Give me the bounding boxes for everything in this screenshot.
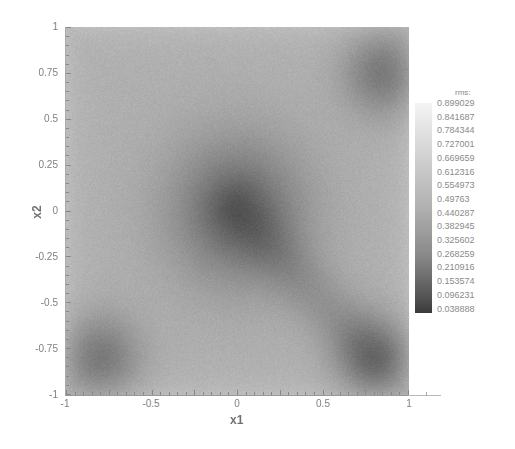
colorbar-level: 0.841687	[437, 111, 475, 125]
y-tick-label: -0.25	[18, 251, 58, 262]
colorbar-level: 0.382945	[437, 220, 475, 234]
colorbar-level: 0.784344	[437, 124, 475, 138]
y-tick-label: 1	[18, 21, 58, 32]
x-axis-extension	[408, 395, 441, 396]
colorbar-level: 0.899029	[437, 97, 475, 111]
y-tick-label: 0.5	[18, 113, 58, 124]
colorbar-level: 0.49763	[437, 193, 475, 207]
colorbar-level: 0.554973	[437, 179, 475, 193]
y-axis-title: x2	[30, 205, 44, 218]
heatmap-canvas	[66, 27, 409, 395]
colorbar-level: 0.268259	[437, 248, 475, 262]
colorbar-title: rms:	[455, 88, 471, 97]
colorbar-level: 0.038888	[437, 303, 475, 317]
x-tick-label: 0.5	[303, 398, 343, 409]
y-tick-label: -0.75	[18, 343, 58, 354]
colorbar-level: 0.096231	[437, 289, 475, 303]
colorbar	[415, 103, 432, 313]
heatmap-plot-area	[65, 27, 409, 396]
y-tick-label: -0.5	[18, 297, 58, 308]
x-tick-label: 1	[389, 398, 429, 409]
x-tick-label: -0.5	[131, 398, 171, 409]
x-axis-extension-tick	[426, 392, 427, 396]
colorbar-level: 0.727001	[437, 138, 475, 152]
colorbar-labels: 0.899029 0.841687 0.784344 0.727001 0.66…	[437, 97, 475, 316]
x-tick-label: -1	[45, 398, 85, 409]
colorbar-level: 0.325602	[437, 234, 475, 248]
x-axis-title: x1	[230, 413, 243, 427]
colorbar-level: 0.210916	[437, 261, 475, 275]
colorbar-level: 0.153574	[437, 275, 475, 289]
colorbar-level: 0.612316	[437, 166, 475, 180]
x-tick-label: 0	[217, 398, 257, 409]
y-tick-label: 0.25	[18, 159, 58, 170]
colorbar-level: 0.669659	[437, 152, 475, 166]
colorbar-level: 0.440287	[437, 207, 475, 221]
y-tick-label: 0.75	[18, 67, 58, 78]
